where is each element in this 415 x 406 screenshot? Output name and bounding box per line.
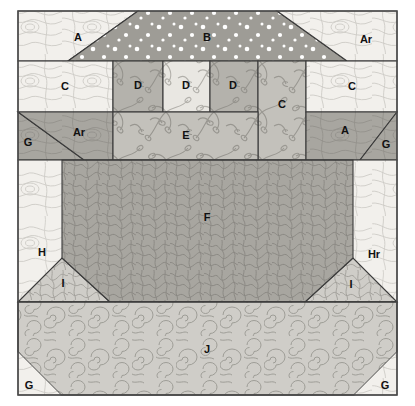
label-C-right: C xyxy=(348,80,356,92)
label-D-two: D xyxy=(182,79,190,91)
label-Hr-right: Hr xyxy=(368,248,381,260)
label-Ar-mid-left: Ar xyxy=(73,126,86,138)
quilt-svg: A B Ar C D D D C C G Ar E A G F H I Hr I… xyxy=(0,0,415,406)
region-C-center[interactable] xyxy=(258,61,306,160)
label-C-center: C xyxy=(278,98,286,110)
quilt-diagram: A B Ar C D D D C C G Ar E A G F H I Hr I… xyxy=(0,0,415,406)
label-G-bottom-right: G xyxy=(381,379,390,391)
label-Ar-top-right: Ar xyxy=(360,33,373,45)
label-A-mid-right: A xyxy=(341,124,349,136)
label-D-three: D xyxy=(229,79,237,91)
label-G-bottom-left: G xyxy=(25,379,34,391)
region-F-center[interactable] xyxy=(62,160,353,302)
label-H-left: H xyxy=(38,246,46,258)
label-A-top-left: A xyxy=(74,31,82,43)
label-I-right: I xyxy=(349,278,352,290)
row-f xyxy=(18,160,397,302)
label-G-mid-left: G xyxy=(24,136,33,148)
label-G-mid-right: G xyxy=(382,138,391,150)
label-J-bottom: J xyxy=(204,343,210,355)
label-C-left: C xyxy=(61,80,69,92)
label-F-center: F xyxy=(204,211,211,223)
label-I-left: I xyxy=(61,277,64,289)
label-E-center: E xyxy=(182,129,189,141)
label-B-top-center: B xyxy=(203,31,211,43)
label-D-one: D xyxy=(134,79,142,91)
